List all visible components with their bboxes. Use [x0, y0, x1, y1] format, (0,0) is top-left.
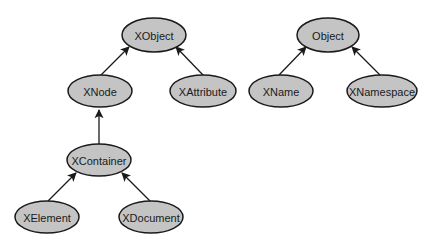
edge-xnode-to-xobject [101, 47, 129, 75]
node-xnode: XNode [68, 75, 132, 107]
node-xattribute: XAttribute [170, 75, 236, 107]
node-label: XElement [23, 212, 71, 224]
node-label: XNode [83, 86, 117, 98]
diagram-svg: XObjectXNodeXAttributeXContainerXElement… [0, 0, 446, 248]
edge-xelement-to-xcontainer [48, 173, 76, 201]
node-label: XDocument [122, 212, 179, 224]
node-label: XNamespace [349, 86, 415, 98]
node-label: Object [312, 30, 344, 42]
node-xobject: XObject [122, 18, 186, 52]
class-hierarchy-diagram: XObjectXNodeXAttributeXContainerXElement… [0, 0, 446, 248]
node-object: Object [297, 18, 359, 52]
node-xcontainer: XContainer [67, 144, 131, 176]
node-label: XContainer [71, 155, 126, 167]
node-label: XName [263, 86, 300, 98]
edges-group [48, 47, 380, 201]
edge-xdocument-to-xcontainer [122, 173, 150, 201]
edge-xname-to-object [279, 47, 306, 75]
node-xnamespace: XNamespace [347, 75, 417, 107]
node-xname: XName [249, 75, 313, 107]
nodes-group: XObjectXNodeXAttributeXContainerXElement… [15, 18, 417, 233]
node-label: XObject [134, 30, 173, 42]
node-xdocument: XDocument [119, 201, 183, 233]
node-label: XAttribute [179, 86, 227, 98]
edge-xnamespace-to-object [352, 47, 380, 75]
edge-xattribute-to-xobject [176, 47, 203, 75]
node-xelement: XElement [15, 201, 79, 233]
